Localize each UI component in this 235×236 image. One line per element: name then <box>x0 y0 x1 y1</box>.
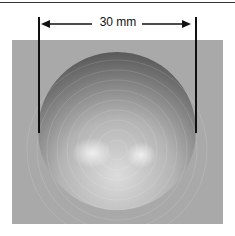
arrow-left-head <box>41 20 50 28</box>
highlight-left <box>72 138 112 168</box>
arrow-right-head <box>182 20 191 28</box>
right-extent-line <box>195 17 197 133</box>
sphere <box>38 52 196 210</box>
dimension-label: 30 mm <box>96 15 140 29</box>
sphere-diagram <box>0 0 235 236</box>
highlight-right <box>126 142 156 168</box>
left-extent-line <box>38 17 40 133</box>
